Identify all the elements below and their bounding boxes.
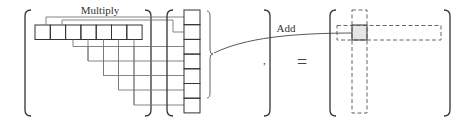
result-left-bracket [330, 10, 336, 116]
vector-cells [184, 10, 200, 113]
vector-brace [207, 11, 213, 98]
vector [167, 10, 213, 116]
matrix-multiplication-diagram: Multiply [0, 0, 472, 126]
left-matrix-right-bracket [145, 10, 151, 116]
matrix-row [35, 25, 142, 40]
result-matrix [330, 10, 450, 116]
comma-separator: , [263, 54, 266, 66]
multiply-connectors [46, 17, 184, 105]
left-matrix-left-bracket [25, 10, 31, 116]
result-right-bracket [444, 10, 450, 116]
add-label: Add [277, 22, 296, 34]
multiply-label: Multiply [81, 4, 120, 16]
add-arrow [214, 33, 357, 53]
result-cell-highlight [352, 25, 367, 40]
equals-sign: = [297, 52, 307, 72]
vector-left-bracket [167, 10, 173, 116]
